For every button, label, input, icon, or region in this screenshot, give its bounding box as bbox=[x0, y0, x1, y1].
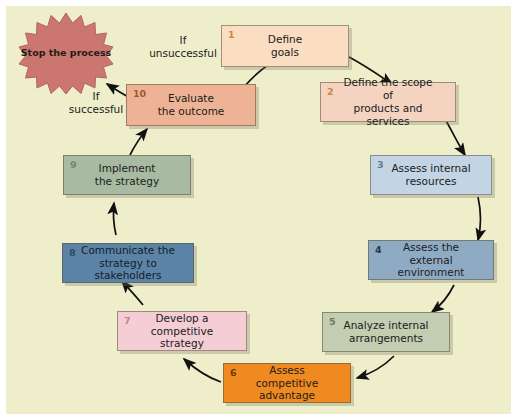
step-label-10: Evaluate the outcome bbox=[142, 92, 241, 118]
step-label-3: Assess internal resources bbox=[375, 162, 486, 188]
edge-label-if-successful: If successful bbox=[57, 90, 135, 116]
step-label-8: Communicate the strategy to stakeholders bbox=[63, 244, 193, 282]
step-box-1[interactable]: 1 Define goals bbox=[221, 25, 349, 67]
step-box-9[interactable]: 9 Implement the strategy bbox=[63, 155, 191, 195]
step-box-8[interactable]: 8 Communicate the strategy to stakeholde… bbox=[62, 243, 194, 283]
edge-label-if-unsuccessful: If unsuccessful bbox=[139, 34, 227, 60]
step-box-7[interactable]: 7 Develop a competitive strategy bbox=[117, 311, 247, 351]
step-number-9: 9 bbox=[70, 160, 77, 170]
step-number-5: 5 bbox=[329, 317, 336, 327]
step-box-2[interactable]: 2 Define the scope of products and servi… bbox=[320, 82, 456, 122]
step-label-9: Implement the strategy bbox=[79, 162, 175, 188]
flowchart-canvas: Stop the process If unsuccessful If succ… bbox=[0, 0, 517, 420]
step-box-10[interactable]: 10 Evaluate the outcome bbox=[126, 84, 256, 126]
step-number-4: 4 bbox=[375, 245, 382, 255]
step-number-3: 3 bbox=[377, 160, 384, 170]
step-label-4: Assess the external environment bbox=[369, 241, 493, 279]
stop-process-label: Stop the process bbox=[18, 12, 114, 94]
step-number-1: 1 bbox=[228, 30, 235, 40]
step-number-7: 7 bbox=[124, 316, 131, 326]
step-number-6: 6 bbox=[230, 368, 237, 378]
step-label-2: Define the scope of products and service… bbox=[321, 76, 455, 127]
step-label-6: Assess competitive advantage bbox=[224, 364, 350, 402]
step-box-4[interactable]: 4 Assess the external environment bbox=[368, 240, 494, 280]
step-box-6[interactable]: 6 Assess competitive advantage bbox=[223, 363, 351, 403]
step-number-10: 10 bbox=[133, 89, 146, 99]
stop-process-star: Stop the process bbox=[18, 12, 114, 94]
step-number-2: 2 bbox=[327, 87, 334, 97]
step-label-5: Analyze internal arrangements bbox=[328, 319, 445, 345]
step-label-7: Develop a competitive strategy bbox=[118, 312, 246, 350]
step-number-8: 8 bbox=[69, 248, 76, 258]
step-box-3[interactable]: 3 Assess internal resources bbox=[370, 155, 492, 195]
step-label-1: Define goals bbox=[252, 33, 318, 59]
step-box-5[interactable]: 5 Analyze internal arrangements bbox=[322, 312, 450, 352]
